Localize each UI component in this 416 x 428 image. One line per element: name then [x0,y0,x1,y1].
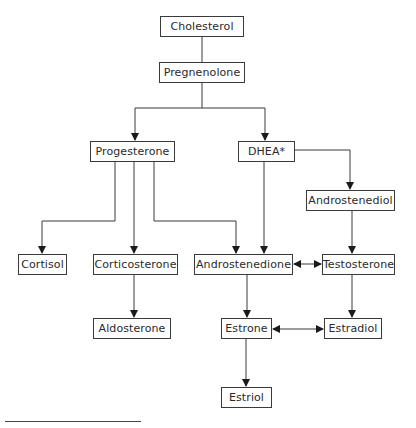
node-corticosterone: Corticosterone [93,254,178,275]
node-cortisol: Cortisol [18,254,67,275]
node-androstenediol: Androstenediol [306,190,395,211]
node-pregnenolone: Pregnenolone [159,62,245,83]
node-testosterone: Testosterone [322,254,395,275]
node-estradiol: Estradiol [324,318,382,339]
pathway-diagram: Cholesterol Pregnenolone Progesterone DH… [0,0,416,428]
node-aldosterone: Aldosterone [93,318,171,339]
node-cholesterol: Cholesterol [160,16,244,37]
edge-progesterone-androstenedione [154,162,236,253]
node-dhea: DHEA* [238,141,295,162]
footnote-divider [5,421,141,422]
node-androstenedione: Androstenedione [194,254,293,275]
node-estriol: Estriol [221,387,272,408]
edge-pregnenolone-trunk [135,83,265,108]
edge-dhea-androstenediol [295,150,350,189]
edge-progesterone-cortisol [42,162,115,253]
node-estrone: Estrone [221,318,272,339]
node-progesterone: Progesterone [90,141,175,162]
